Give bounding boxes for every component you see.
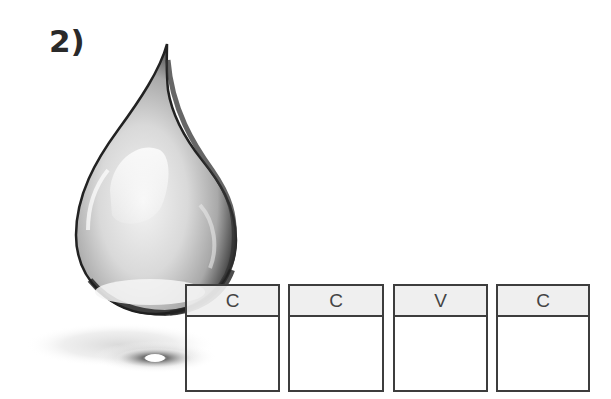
letter-box-answer[interactable] bbox=[187, 317, 278, 390]
letter-box-header: V bbox=[395, 286, 486, 317]
letter-box-answer[interactable] bbox=[395, 317, 486, 390]
letter-box-header: C bbox=[187, 286, 278, 317]
letter-box-header: C bbox=[290, 286, 382, 317]
water-drop-icon bbox=[76, 44, 236, 314]
letter-box-3[interactable]: V bbox=[393, 284, 488, 392]
letter-box-4[interactable]: C bbox=[496, 284, 590, 392]
letter-box-answer[interactable] bbox=[290, 317, 382, 390]
letter-box-header: C bbox=[498, 286, 588, 317]
letter-box-answer[interactable] bbox=[498, 317, 588, 390]
letter-box-1[interactable]: C bbox=[185, 284, 280, 392]
letter-box-2[interactable]: C bbox=[288, 284, 384, 392]
